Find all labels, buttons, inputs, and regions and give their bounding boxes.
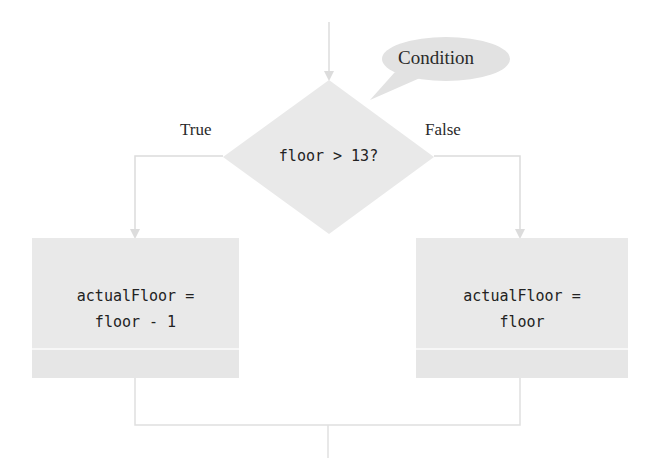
box-lower-band	[32, 350, 239, 378]
false-branch-connector	[434, 156, 520, 234]
callout-label: Condition	[398, 47, 474, 69]
false-action-line2: floor	[416, 309, 628, 335]
true-branch-connector	[135, 156, 223, 234]
false-merge-connector	[328, 378, 520, 425]
decision-condition-text: floor > 13?	[223, 143, 434, 169]
flowchart-canvas	[0, 0, 660, 458]
false-action-line1: actualFloor =	[416, 283, 628, 309]
box-lower-band	[416, 350, 628, 378]
true-action-line1: actualFloor =	[32, 283, 239, 309]
false-branch-label: False	[425, 120, 461, 140]
true-merge-connector	[135, 378, 328, 425]
true-branch-label: True	[180, 120, 212, 140]
true-action-line2: floor - 1	[32, 309, 239, 335]
